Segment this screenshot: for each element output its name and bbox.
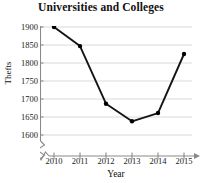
plot-area <box>40 26 192 138</box>
y-tick-label: 1850 <box>4 41 38 50</box>
y-tick-label: 1900 <box>4 23 38 32</box>
y-axis-tick-labels: 1900 1850 1800 1750 1700 1650 1600 <box>2 26 38 138</box>
y-tick-label: 1650 <box>4 113 38 122</box>
y-tick-label: 1700 <box>4 95 38 104</box>
y-axis-break-symbol <box>40 141 45 159</box>
x-axis-title: Year <box>40 169 192 179</box>
x-axis-arrowhead <box>194 153 200 159</box>
data-line <box>54 27 184 121</box>
y-tick-label: 1800 <box>4 59 38 68</box>
y-tick-label: 1600 <box>4 131 38 140</box>
data-point <box>130 119 134 123</box>
gridlines <box>41 27 193 135</box>
data-point <box>104 101 108 105</box>
y-tick-label: 1750 <box>4 77 38 86</box>
chart-svg <box>40 26 200 164</box>
data-point <box>182 52 186 56</box>
chart-container: Universities and Colleges Thefts Year 19… <box>0 0 202 183</box>
data-point <box>156 111 160 115</box>
chart-title: Universities and Colleges <box>0 1 202 13</box>
data-point <box>78 44 82 48</box>
